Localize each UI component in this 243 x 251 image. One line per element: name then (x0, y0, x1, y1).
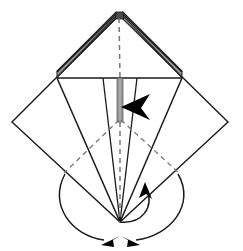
apex-nub (115, 12, 124, 19)
origami-figure (0, 0, 243, 251)
origami-diagram-container: Origami fold diagram (0, 0, 243, 251)
